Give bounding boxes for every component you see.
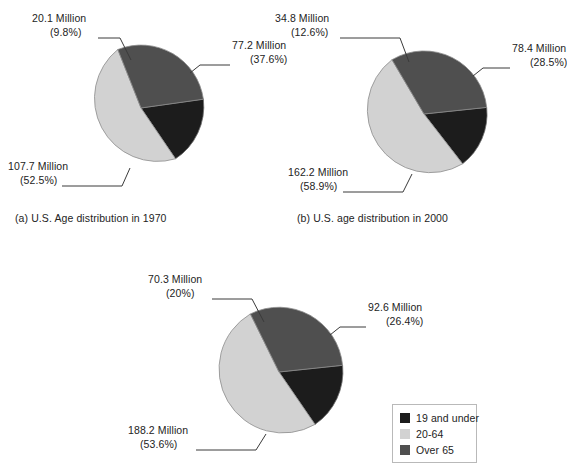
pie-a-label-over65: 20.1 Million (9.8%) — [32, 12, 86, 39]
pie-b-label-age20-64: 162.2 Million (58.9%) — [288, 166, 348, 193]
caption-b: (b) U.S. age distribution in 2000 — [297, 212, 448, 224]
pie-a-label-age20-64: 107.7 Million (52.5%) — [8, 160, 68, 187]
pie-b-label-under19-amount: 78.4 Million — [512, 42, 567, 56]
pie-c-leader-age20-64 — [196, 434, 266, 450]
legend: 19 and under 20-64 Over 65 — [392, 404, 477, 463]
caption-a: (a) U.S. Age distribution in 1970 — [15, 212, 167, 224]
pie-c-label-under19-amount: 92.6 Million — [368, 301, 423, 315]
legend-item-age20-64: 20-64 — [400, 426, 476, 442]
pie-a-label-over65-amount: 20.1 Million — [32, 12, 86, 26]
pie-c-label-over65-percent: (20%) — [166, 287, 202, 301]
legend-swatch-age20-64-icon — [400, 429, 410, 439]
pie-b-label-over65-amount: 34.8 Million — [275, 12, 329, 26]
pie-c-label-under19: 92.6 Million (26.4%) — [368, 301, 423, 328]
pie-chart-a — [62, 38, 230, 186]
pie-b-label-over65: 34.8 Million (12.6%) — [275, 12, 329, 39]
pie-a-leader-under19 — [190, 65, 230, 73]
legend-label-age20-64: 20-64 — [416, 428, 443, 440]
pie-c-label-over65-amount: 70.3 Million — [148, 273, 202, 287]
legend-label-under19: 19 and under — [416, 412, 479, 424]
legend-item-over65: Over 65 — [400, 442, 476, 458]
pie-c-label-under19-percent: (26.4%) — [386, 315, 423, 329]
pie-c-label-over65: 70.3 Million (20%) — [148, 273, 202, 300]
pie-c-leader-under19 — [330, 327, 366, 335]
pie-b-leader-age20-64 — [343, 174, 412, 192]
pie-b-leader-under19 — [473, 68, 510, 76]
pie-b-label-under19: 78.4 Million (28.5%) — [512, 42, 567, 69]
pie-c-label-age20-64: 188.2 Million (53.6%) — [128, 424, 188, 451]
pie-c-label-age20-64-amount: 188.2 Million — [128, 424, 188, 438]
pie-a-leader-age20-64 — [62, 168, 130, 186]
pie-a-label-under19-amount: 77.2 Million — [232, 39, 287, 53]
pie-chart-b — [340, 38, 510, 192]
pie-a-label-age20-64-amount: 107.7 Million — [8, 160, 68, 174]
legend-swatch-over65-icon — [400, 445, 410, 455]
legend-item-under19: 19 and under — [400, 410, 476, 426]
pie-b-label-age20-64-amount: 162.2 Million — [288, 166, 348, 180]
legend-label-over65: Over 65 — [416, 444, 454, 456]
pie-c-label-age20-64-percent: (53.6%) — [140, 438, 188, 452]
pie-b-label-over65-percent: (12.6%) — [291, 26, 329, 40]
pie-chart-c — [196, 299, 366, 450]
pie-a-label-age20-64-percent: (52.5%) — [20, 174, 68, 188]
pie-b-label-under19-percent: (28.5%) — [530, 56, 567, 70]
legend-swatch-under19-icon — [400, 413, 410, 423]
pie-b-label-age20-64-percent: (58.9%) — [300, 180, 348, 194]
pie-a-label-over65-percent: (9.8%) — [50, 26, 86, 40]
pie-a-label-under19: 77.2 Million (37.6%) — [232, 39, 287, 66]
pie-a-label-under19-percent: (37.6%) — [250, 53, 287, 67]
